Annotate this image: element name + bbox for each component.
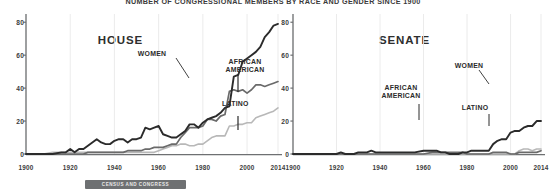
- annotation-latino-senate: LATINO: [462, 104, 489, 112]
- series-line: [26, 82, 278, 154]
- plot-area-house: [0, 12, 285, 174]
- annotation-african-american-house: AFRICAN AMERICAN: [222, 58, 268, 75]
- plot-svg-house: [0, 12, 285, 174]
- x-tick-label: 1900: [18, 164, 33, 171]
- annotation-latino-house: LATINO: [222, 100, 249, 108]
- series-line: [293, 121, 541, 154]
- x-tick-label: 1980: [195, 164, 210, 171]
- figure-title: NUMBER OF CONGRESSIONAL MEMBERS BY RACE …: [0, 0, 546, 7]
- y-tick-label: 20: [16, 118, 24, 125]
- x-tick-label: 1960: [416, 164, 431, 171]
- x-tick-label: 1940: [107, 164, 122, 171]
- y-axis-house: 020406080: [2, 12, 24, 174]
- series-line: [26, 24, 278, 154]
- annotation-leader-line: [479, 70, 489, 84]
- y-tick-label: 0: [20, 151, 24, 158]
- x-tick-label: 1960: [151, 164, 166, 171]
- annotation-women-senate: WOMEN: [455, 62, 483, 70]
- x-tick-label: 1940: [373, 164, 388, 171]
- y-tick-label: 60: [16, 52, 24, 59]
- annotation-leader-line: [176, 58, 189, 78]
- y-tick-label: 60: [281, 52, 289, 59]
- x-tick-label: 2000: [503, 164, 518, 171]
- y-tick-label: 20: [281, 118, 289, 125]
- x-tick-label: 2014: [533, 164, 548, 171]
- annotation-african-american-senate: AFRICAN AMERICAN: [378, 84, 424, 101]
- series-line: [26, 108, 278, 154]
- chart-panel-senate: SENATE 020406080 19001920194019601980200…: [283, 12, 546, 174]
- y-tick-label: 80: [281, 19, 289, 26]
- x-tick-label: 1900: [285, 164, 300, 171]
- x-tick-label: 1980: [460, 164, 475, 171]
- x-tick-label: 1920: [329, 164, 344, 171]
- source-caption-text: CENSUS AND CONGRESS: [85, 180, 186, 189]
- chart-panel-house: HOUSE 020406080 190019201940196019802000…: [0, 12, 285, 174]
- y-tick-label: 80: [16, 19, 24, 26]
- y-tick-label: 40: [281, 85, 289, 92]
- y-axis-senate: 020406080: [267, 12, 289, 174]
- annotation-women-house: WOMEN: [138, 50, 166, 58]
- y-tick-label: 0: [285, 151, 289, 158]
- x-tick-label: 1920: [63, 164, 78, 171]
- source-caption: CENSUS AND CONGRESS: [85, 180, 186, 189]
- x-tick-label: 2000: [240, 164, 255, 171]
- y-tick-label: 40: [16, 85, 24, 92]
